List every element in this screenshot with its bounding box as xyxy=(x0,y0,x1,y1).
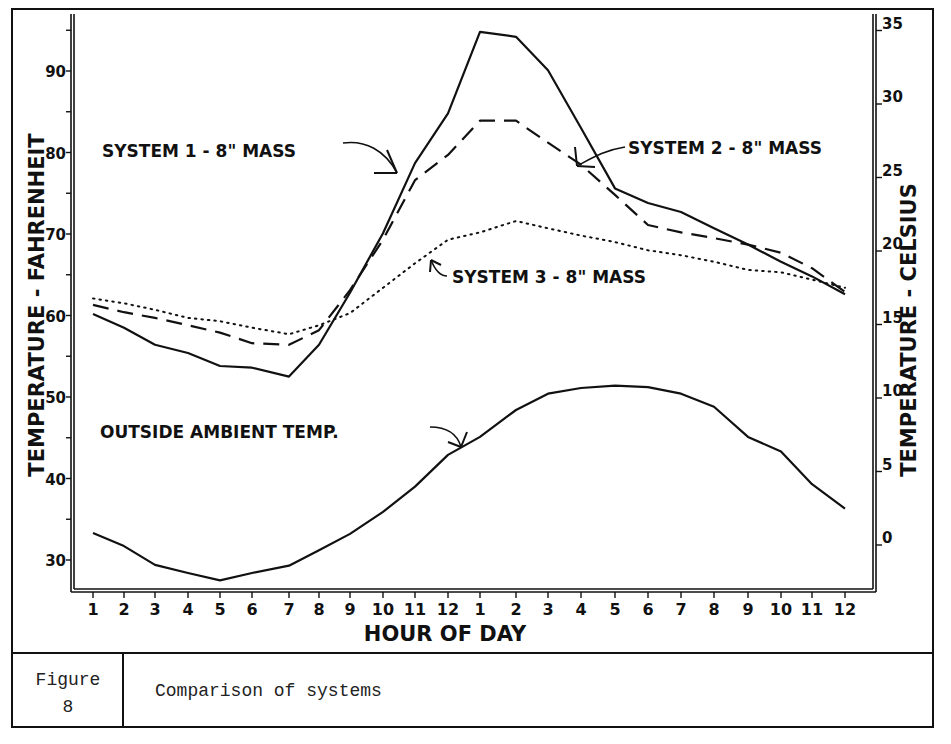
x-tick-label: 8 xyxy=(313,600,324,619)
x-tick-label: 2 xyxy=(510,600,521,619)
y-tick-label-right: 25 xyxy=(882,162,903,180)
arrowhead-icon xyxy=(430,260,441,272)
annotation-arrow-system-3 xyxy=(431,260,447,276)
x-tick-label: 7 xyxy=(283,600,294,619)
y-tick-label-right: 0 xyxy=(882,529,892,547)
arrowhead-icon xyxy=(374,150,397,173)
y-tick-label-right: 30 xyxy=(882,88,903,106)
x-tick-label: 9 xyxy=(742,600,753,619)
left-axis-ticks: 30405060708090 xyxy=(45,30,71,570)
figure-label: Figure xyxy=(36,670,101,690)
figure-number: 8 xyxy=(63,697,74,717)
annotation-system-2: SYSTEM 2 - 8" MASS xyxy=(628,138,822,158)
x-tick-label: 11 xyxy=(801,600,823,619)
x-tick-label: 5 xyxy=(609,600,620,619)
figure-frame xyxy=(12,9,933,727)
y-tick-label-left: 30 xyxy=(45,552,66,570)
y-axis-label-right: TEMPERATURE - CELSIUS xyxy=(897,183,921,477)
x-tick-label: 12 xyxy=(834,600,856,619)
x-tick-label: 6 xyxy=(246,600,257,619)
series-line-1 xyxy=(93,32,845,377)
x-tick-label: 3 xyxy=(542,600,553,619)
annotation-system-3: SYSTEM 3 - 8" MASS xyxy=(452,267,646,287)
series-lines xyxy=(93,32,845,581)
y-tick-label-right: 35 xyxy=(882,15,903,33)
x-tick-label: 8 xyxy=(708,600,719,619)
x-tick-label: 5 xyxy=(214,600,225,619)
figure-caption: Comparison of systems xyxy=(155,681,382,701)
x-tick-label: 6 xyxy=(642,600,653,619)
y-tick-label-left: 90 xyxy=(45,63,66,81)
x-tick-label: 11 xyxy=(404,600,426,619)
series-line-4 xyxy=(93,386,845,581)
x-tick-label: 1 xyxy=(87,600,98,619)
x-tick-label: 7 xyxy=(675,600,686,619)
y-tick-label-right: 5 xyxy=(882,456,892,474)
x-tick-label: 10 xyxy=(372,600,394,619)
y-axis-label-left: TEMPERATURE - FAHRENHEIT xyxy=(25,133,49,477)
x-tick-label: 3 xyxy=(149,600,160,619)
annotation-outside-ambient: OUTSIDE AMBIENT TEMP. xyxy=(100,422,339,442)
x-tick-label: 9 xyxy=(344,600,355,619)
x-tick-label: 12 xyxy=(437,600,459,619)
x-axis-label: HOUR OF DAY xyxy=(364,622,527,646)
plot-axes xyxy=(71,14,876,592)
annotation-system-1: SYSTEM 1 - 8" MASS xyxy=(102,141,296,161)
x-tick-label: 4 xyxy=(575,600,586,619)
annotation-arrow-outside xyxy=(430,427,461,447)
x-tick-label: 4 xyxy=(182,600,193,619)
x-tick-label: 10 xyxy=(770,600,792,619)
figure-8-chart: 30405060708090 05101520253035 1234567891… xyxy=(0,0,951,744)
x-tick-label: 2 xyxy=(118,600,129,619)
x-axis-ticks: 123456789101112123456789101112 xyxy=(87,592,856,619)
x-tick-label: 1 xyxy=(474,600,485,619)
annotation-arrow-system-1 xyxy=(343,142,397,173)
